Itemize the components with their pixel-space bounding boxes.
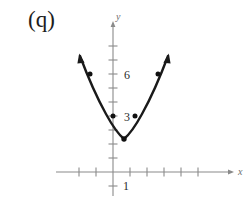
right-branch-arrowhead <box>163 54 170 64</box>
x-axis: x <box>56 166 243 177</box>
y-tick-label-3: 3 <box>124 110 130 124</box>
left-branch-arrowhead <box>77 54 84 64</box>
plot-svg: x y <box>0 0 249 209</box>
y-tick-label-6: 6 <box>124 68 130 82</box>
x-tick-label-1: 1 <box>123 179 129 193</box>
figure-panel: (q) x y <box>0 0 249 209</box>
data-point <box>111 114 116 119</box>
parabola-curve <box>77 54 170 140</box>
data-point <box>156 72 161 77</box>
marked-points <box>88 72 161 142</box>
y-axis: y <box>111 11 121 196</box>
data-point-vertex <box>121 136 126 141</box>
data-point <box>133 114 138 119</box>
data-point <box>88 72 93 77</box>
y-axis-arrowhead <box>111 21 116 27</box>
y-axis-label: y <box>115 11 121 22</box>
x-axis-label: x <box>237 166 243 177</box>
x-axis-arrowhead <box>228 170 234 175</box>
